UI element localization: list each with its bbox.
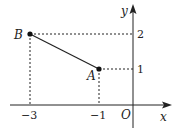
- origin-label: O: [121, 108, 131, 122]
- x-tick-neg1: −1: [90, 109, 106, 122]
- y-axis-label: y: [120, 4, 128, 18]
- y-tick-1: 1: [137, 63, 144, 76]
- point-a: [96, 66, 101, 71]
- point-b-label: B: [13, 28, 23, 42]
- point-b: [27, 31, 32, 36]
- x-axis-label: x: [160, 110, 167, 124]
- y-tick-2: 2: [137, 28, 144, 41]
- x-tick-neg3: −3: [21, 109, 37, 122]
- point-a-label: A: [86, 69, 96, 83]
- segment-ab: [30, 34, 99, 69]
- coordinate-diagram: B A y x O 2 1 −3 −1: [0, 0, 176, 128]
